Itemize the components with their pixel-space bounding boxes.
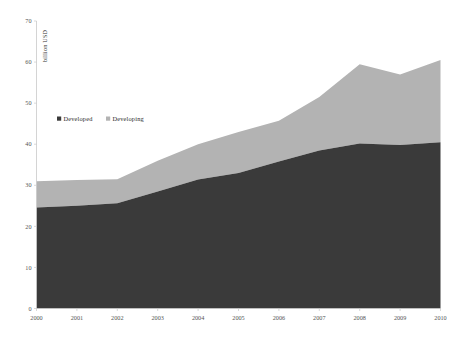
x-tick-label: 2003 [152, 314, 164, 321]
x-tick-label: 2006 [273, 314, 285, 321]
x-tick-label: 2001 [71, 314, 83, 321]
x-tick-label: 2002 [111, 314, 123, 321]
y-tick-label: 50 [25, 99, 31, 106]
x-tick-label: 2009 [394, 314, 406, 321]
y-tick-label: 70 [25, 17, 31, 24]
y-tick-label: 40 [25, 140, 31, 147]
legend-swatch-developed [57, 117, 61, 121]
legend-swatch-developing [106, 117, 110, 121]
y-axis-title: billion USD [41, 29, 48, 62]
y-tick-label: 0 [28, 305, 31, 312]
x-tick-label: 2000 [30, 314, 42, 321]
x-tick-label: 2008 [354, 314, 366, 321]
legend-label-developed: Developed [64, 115, 94, 122]
y-tick-label: 10 [25, 264, 31, 271]
y-tick-label: 30 [25, 181, 31, 188]
x-tick-label: 2004 [192, 314, 204, 321]
y-tick-label: 20 [25, 223, 31, 230]
x-tick-label: 2005 [232, 314, 244, 321]
legend-label-developing: Developing [113, 115, 145, 122]
x-tick-label: 2010 [434, 314, 446, 321]
chart-canvas: 010203040506070 200020012002200320042005… [0, 0, 457, 342]
x-tick-label: 2007 [313, 314, 325, 321]
y-tick-label: 60 [25, 58, 31, 65]
stacked-area-chart: 010203040506070 200020012002200320042005… [0, 0, 457, 342]
